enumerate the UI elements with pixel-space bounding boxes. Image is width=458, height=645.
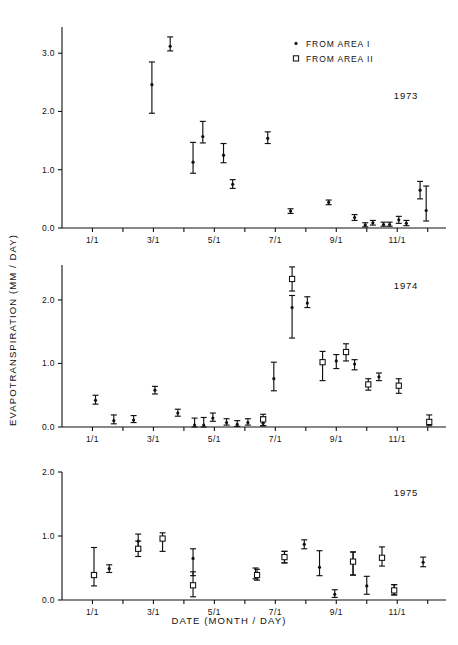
data-point-open: [136, 546, 141, 551]
data-point-filled: [211, 417, 214, 420]
series-from-area-i: [106, 534, 426, 597]
x-tick-label: 11/1: [388, 235, 406, 245]
data-point-filled: [303, 543, 306, 546]
legend-label-1: FROM AREA I: [306, 39, 370, 49]
data-point-open: [91, 572, 96, 577]
data-point-filled: [112, 419, 115, 422]
data-point-open: [282, 555, 287, 560]
y-tick-label: 0.0: [42, 595, 55, 605]
y-tick-label: 1.0: [42, 165, 55, 175]
y-tick-label: 1.0: [42, 358, 55, 368]
chart-canvas: 0.01.02.03.01/13/15/17/19/111/119730.01.…: [0, 0, 458, 645]
x-tick-label: 7/1: [269, 434, 282, 444]
legend: FROM AREA IFROM AREA II: [293, 39, 373, 64]
x-tick-label: 7/1: [269, 235, 282, 245]
data-point-filled: [425, 209, 428, 212]
data-point-filled: [272, 377, 275, 380]
year-label-1973: 1973: [394, 90, 418, 101]
data-point-open: [427, 419, 432, 424]
panel-1973: 0.01.02.03.01/13/15/17/19/111/11973: [42, 27, 446, 245]
data-point-filled: [225, 421, 228, 424]
data-point-open: [261, 417, 266, 422]
data-point-filled: [201, 135, 204, 138]
data-point-filled: [108, 567, 111, 570]
data-point-open: [289, 276, 294, 281]
year-label-1974: 1974: [394, 280, 418, 291]
x-tick-label: 1/1: [86, 235, 99, 245]
data-point-filled: [388, 223, 391, 226]
x-tick-label: 11/1: [388, 434, 406, 444]
panel-1974: 0.01.02.01/13/15/17/19/111/11974: [42, 265, 446, 444]
x-tick-label: 9/1: [330, 434, 343, 444]
y-tick-label: 2.0: [42, 106, 55, 116]
data-point-filled: [418, 189, 421, 192]
data-point-filled: [422, 561, 425, 564]
year-label-1975: 1975: [394, 487, 418, 498]
y-tick-label: 2.0: [42, 295, 55, 305]
data-point-filled: [382, 223, 385, 226]
data-point-filled: [191, 557, 194, 560]
data-point-filled: [289, 210, 292, 213]
y-tick-label: 0.0: [42, 223, 55, 233]
x-tick-label: 5/1: [208, 434, 221, 444]
data-point-filled: [153, 389, 156, 392]
x-tick-label: 5/1: [208, 235, 221, 245]
x-axis-title: DATE (MONTH / DAY): [172, 615, 287, 626]
legend-label-2: FROM AREA II: [306, 54, 373, 64]
x-tick-label: 1/1: [86, 607, 99, 617]
data-point-open: [343, 349, 348, 354]
data-point-open: [366, 382, 371, 387]
data-point-open: [320, 360, 325, 365]
data-point-filled: [94, 399, 97, 402]
x-tick-label: 9/1: [330, 607, 343, 617]
data-point-filled: [222, 154, 225, 157]
y-tick-label: 0.0: [42, 422, 55, 432]
data-point-filled: [193, 423, 196, 426]
x-tick-label: 11/1: [388, 607, 406, 617]
data-point-filled: [191, 161, 194, 164]
data-point-open: [392, 588, 397, 593]
legend-marker-open: [293, 56, 298, 61]
data-point-filled: [176, 411, 179, 414]
series-from-area-i: [93, 295, 382, 427]
data-point-open: [190, 583, 195, 588]
data-point-open: [379, 555, 384, 560]
data-point-open: [350, 559, 355, 564]
x-tick-label: 1/1: [86, 434, 99, 444]
y-axis-title: EVAPOTRANSPIRATION (MM / DAY): [7, 234, 18, 426]
x-tick-label: 3/1: [147, 434, 160, 444]
data-point-filled: [318, 566, 321, 569]
data-point-filled: [335, 359, 338, 362]
data-point-filled: [364, 223, 367, 226]
data-point-filled: [231, 183, 234, 186]
data-point-filled: [150, 83, 153, 86]
evapotranspiration-figure: 0.01.02.03.01/13/15/17/19/111/119730.01.…: [0, 0, 458, 645]
x-tick-label: 9/1: [330, 235, 343, 245]
data-point-filled: [169, 45, 172, 48]
panel-1975: 0.01.02.01/13/15/17/19/111/11975: [42, 467, 446, 617]
y-tick-label: 2.0: [42, 467, 55, 477]
data-point-filled: [405, 222, 408, 225]
data-point-open: [254, 572, 259, 577]
data-point-filled: [132, 418, 135, 421]
data-point-open: [160, 536, 165, 541]
data-point-filled: [266, 137, 269, 140]
x-tick-label: 3/1: [147, 607, 160, 617]
y-tick-label: 3.0: [42, 48, 55, 58]
y-tick-label: 1.0: [42, 531, 55, 541]
data-point-open: [396, 383, 401, 388]
data-point-filled: [353, 363, 356, 366]
data-point-filled: [371, 221, 374, 224]
data-point-filled: [397, 218, 400, 221]
series-from-area-i: [149, 37, 429, 227]
data-point-filled: [377, 375, 380, 378]
data-point-filled: [236, 423, 239, 426]
data-point-filled: [327, 201, 330, 204]
data-point-filled: [246, 421, 249, 424]
data-point-filled: [306, 302, 309, 305]
data-point-filled: [202, 423, 205, 426]
data-point-filled: [290, 306, 293, 309]
data-point-filled: [333, 593, 336, 596]
legend-marker-filled: [294, 42, 297, 45]
series-from-area-ii: [91, 533, 397, 597]
